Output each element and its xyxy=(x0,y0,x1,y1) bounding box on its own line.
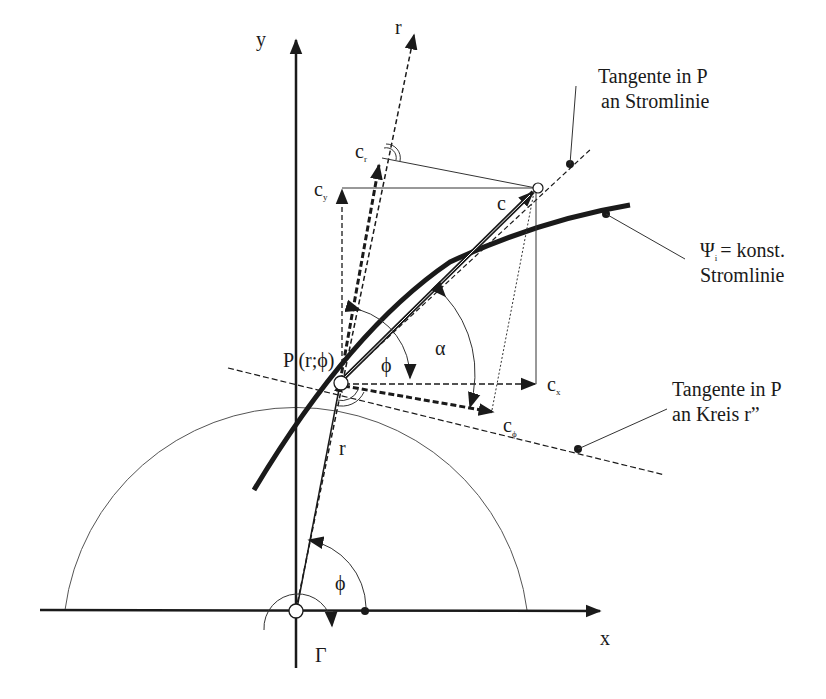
radius-label: r xyxy=(339,437,346,459)
velocity-cphi-label: cϕ xyxy=(503,414,517,439)
leader-streamline-tangent xyxy=(570,86,576,164)
streamline-velocity-diagram: y r x P (r;ϕ) c cr cy cx cϕ ϕ α ϕ r Γ Ta… xyxy=(0,0,826,699)
leader-streamline xyxy=(606,214,685,259)
y-axis-label: y xyxy=(256,28,266,51)
velocity-cx-label: cx xyxy=(547,373,561,397)
point-p-label: P (r;ϕ) xyxy=(283,349,334,372)
x-axis xyxy=(40,610,600,611)
phi-origin-marker xyxy=(361,607,369,615)
origin-point xyxy=(289,604,303,618)
velocity-cy-label: cy xyxy=(314,178,328,202)
angle-phi-upper-label: ϕ xyxy=(381,354,392,377)
cr-projection xyxy=(382,158,536,188)
angle-phi-lower-label: ϕ xyxy=(335,572,346,595)
velocity-cr-label: cr xyxy=(355,140,367,164)
angle-alpha-arc xyxy=(445,296,475,407)
circulation-label: Γ xyxy=(315,644,327,666)
velocity-c-label: c xyxy=(497,192,506,214)
streamline-annotation: Ψi= konst. Stromlinie xyxy=(700,239,790,286)
point-p xyxy=(334,376,348,390)
circle-tangent-annotation: Tangente in P an Kreis r” xyxy=(672,378,786,425)
angle-alpha-label: α xyxy=(435,337,446,359)
velocity-cphi xyxy=(344,386,493,412)
r-axis-label: r xyxy=(395,16,402,38)
leader-circle-tangent xyxy=(578,409,667,449)
streamline-tangent-annotation: Tangente in P an Stromlinie xyxy=(598,65,712,112)
velocity-c-tip xyxy=(533,183,543,193)
x-axis-label: x xyxy=(600,627,610,649)
